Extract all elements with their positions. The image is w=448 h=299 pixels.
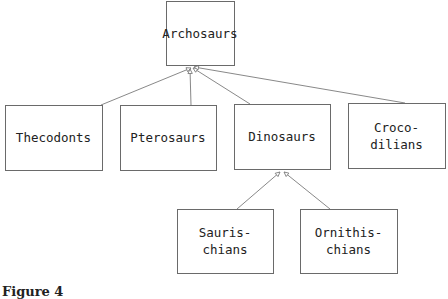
edge-ornithischians-to-dinosaurs	[284, 172, 330, 209]
node-pterosaurs: Pterosaurs	[121, 106, 217, 171]
node-label: Archosaurs	[162, 26, 237, 41]
node-label: Ornithis-	[315, 225, 383, 240]
edge-pterosaurs-to-archosaurs	[190, 69, 191, 105]
edge-dinosaurs-to-archosaurs	[193, 68, 250, 104]
node-label: Sauris-	[199, 225, 252, 240]
node-label: Croco-	[374, 120, 419, 135]
figure-caption: Figure 4	[2, 284, 63, 299]
node-archosaurs: Archosaurs	[162, 2, 237, 66]
node-label: chians	[202, 242, 247, 257]
node-label: chians	[326, 242, 371, 257]
edge-thecodonts-to-archosaurs	[101, 68, 191, 105]
node-label: Pterosaurs	[130, 130, 205, 145]
edge-saurischians-to-dinosaurs	[237, 172, 280, 209]
edge-crocodilians-to-archosaurs	[194, 67, 405, 103]
node-thecodonts: Thecodonts	[6, 106, 103, 171]
node-dinosaurs: Dinosaurs	[235, 105, 331, 170]
node-crocodilians: Croco-dilians	[349, 104, 446, 169]
node-label: Thecodonts	[16, 130, 91, 145]
node-label: dilians	[370, 137, 423, 152]
node-label: Dinosaurs	[248, 129, 316, 144]
node-saurischians: Sauris-chians	[178, 210, 274, 274]
nodes: ArchosaursThecodontsPterosaursDinosaursC…	[6, 2, 446, 274]
node-ornithischians: Ornithis-chians	[301, 210, 398, 274]
